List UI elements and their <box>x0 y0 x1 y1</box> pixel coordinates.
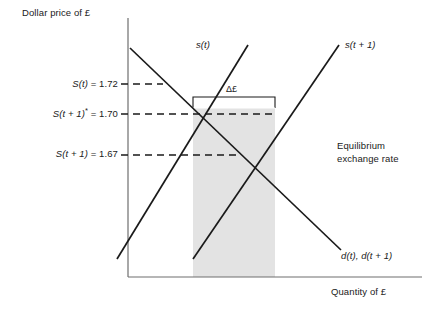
x-axis-title: Quantity of £ <box>331 286 386 298</box>
y-tick-172-symbol: S(t) <box>72 78 88 89</box>
y-tick-label-167: S(t + 1) = 1.67 <box>18 148 118 160</box>
equilibrium-note-line2: exchange rate <box>337 153 399 164</box>
exchange-rate-diagram: Dollar price of £ Quantity of £ S(t) = 1… <box>0 0 422 309</box>
delta-bracket-box <box>193 97 275 108</box>
delta-quantity-label: Δ£ <box>226 84 237 95</box>
y-axis-title: Dollar price of £ <box>22 7 90 19</box>
y-tick-170-symbol: S(t + 1) <box>53 108 85 119</box>
curve-label-supply-initial: s(t) <box>196 39 210 51</box>
delta-quantity-shaded-band <box>193 108 275 277</box>
equilibrium-note: Equilibriumexchange rate <box>337 140 399 166</box>
y-tick-170-value: = 1.70 <box>88 108 118 119</box>
y-tick-label-170: S(t + 1)* = 1.70 <box>10 108 118 120</box>
curve-label-demand: d(t), d(t + 1) <box>341 250 392 262</box>
equilibrium-note-line1: Equilibrium <box>337 140 385 151</box>
y-tick-172-value: = 1.72 <box>88 78 118 89</box>
curve-label-supply-shifted: s(t + 1) <box>345 39 376 51</box>
y-tick-label-172: S(t) = 1.72 <box>18 78 118 90</box>
y-tick-167-symbol: S(t + 1) <box>56 148 88 159</box>
y-tick-167-value: = 1.67 <box>88 148 118 159</box>
